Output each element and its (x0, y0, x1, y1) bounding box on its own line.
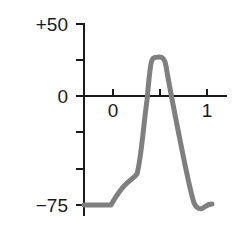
y-label-minus75: −75 (36, 195, 68, 216)
y-label-plus50: +50 (36, 14, 68, 35)
x-ticks (113, 89, 207, 96)
x-label-one: 1 (202, 100, 213, 121)
action-potential-chart: +50 0 −75 0 1 (0, 0, 242, 231)
x-label-zero: 0 (108, 100, 119, 121)
action-potential-curve (84, 57, 212, 209)
y-label-zero: 0 (57, 86, 68, 107)
